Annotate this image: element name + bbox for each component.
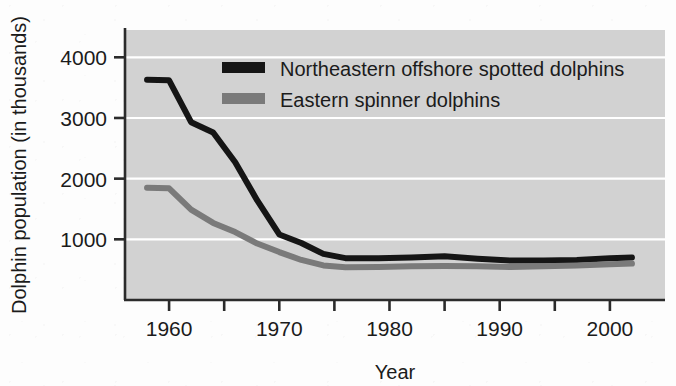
y-tick-label: 1000 — [60, 228, 107, 251]
legend-swatch-1 — [222, 93, 265, 104]
y-axis-title: Dolphin population (in thousands) — [8, 16, 30, 314]
legend-swatch-0 — [222, 62, 265, 73]
x-axis-title: Year — [375, 361, 416, 383]
x-tick-label: 1960 — [146, 317, 193, 340]
y-tick-label: 2000 — [60, 168, 107, 191]
y-tick-label: 4000 — [60, 46, 107, 69]
y-tick-label: 3000 — [60, 107, 107, 130]
x-tick-label: 2000 — [587, 317, 634, 340]
legend-label-0: Northeastern offshore spotted dolphins — [280, 58, 624, 80]
x-tick-label: 1970 — [256, 317, 303, 340]
x-tick-label: 1990 — [476, 317, 523, 340]
legend-label-1: Eastern spinner dolphins — [280, 89, 500, 111]
line-chart: 100020003000400019601970198019902000Year… — [0, 0, 676, 386]
y-axis-ticks: 1000200030004000 — [60, 46, 125, 251]
x-axis-ticks: 19601970198019902000 — [146, 300, 634, 340]
x-tick-label: 1980 — [366, 317, 413, 340]
dolphin-population-figure: 100020003000400019601970198019902000Year… — [0, 0, 676, 386]
